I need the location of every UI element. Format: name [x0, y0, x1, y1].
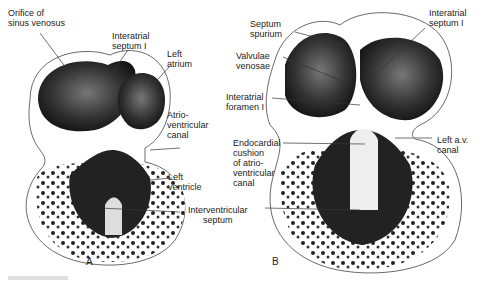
label-interatrial-septum-a: Interatrial septum I: [112, 31, 150, 51]
label-interventricular-septum: Interventricular septum: [188, 205, 248, 225]
label-septum-spurium: Septum spurium: [250, 19, 282, 39]
label-left-ventricle: Left ventricle: [168, 172, 202, 192]
caption-fragment: [8, 276, 68, 280]
label-interatrial-septum-b: Interatrial septum I: [429, 8, 467, 28]
panel-a-heart: [26, 51, 185, 266]
label-av-canal: Atrio- ventricular canal: [167, 110, 209, 140]
label-left-atrium: Left atrium: [167, 49, 192, 69]
label-orifice-sinus-venosus: Orifice of sinus venosus: [8, 8, 65, 28]
panel-letter-b: B: [272, 256, 279, 267]
label-valvulae-venosae: Valvulae venosae: [236, 51, 270, 71]
panel-letter-a: A: [86, 256, 93, 267]
label-interatrial-foramen: Interatrial foramen I: [226, 92, 264, 112]
label-left-av-canal: Left a.v. canal: [437, 135, 468, 155]
label-endocardial-cushion: Endocardial cushion of atrio- ventricula…: [233, 138, 281, 188]
